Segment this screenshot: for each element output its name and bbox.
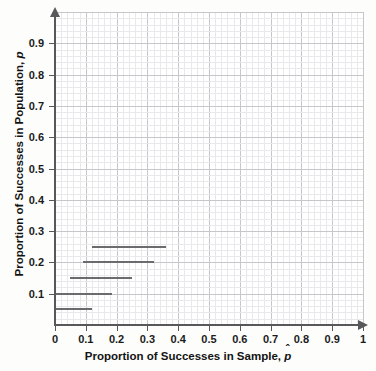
data-segment (55, 293, 112, 295)
y-axis-tick (49, 169, 54, 170)
x-axis-tick-label: 0.2 (109, 333, 124, 345)
y-axis-tick (49, 200, 54, 201)
gridline-horizontal (55, 306, 363, 307)
gridline-horizontal (55, 12, 363, 13)
gridline-horizontal (55, 275, 363, 276)
gridline-horizontal (55, 256, 363, 257)
x-axis-tick-label: 0.8 (294, 333, 309, 345)
gridline-horizontal (55, 112, 363, 113)
x-axis-tick (117, 326, 118, 331)
y-axis-tick-label: 0.7 (29, 100, 44, 112)
gridline-horizontal (55, 162, 363, 163)
gridline-horizontal (55, 81, 363, 82)
chart-container: 00.10.20.30.40.50.60.70.80.910.10.20.30.… (0, 0, 376, 371)
x-axis-tick (240, 326, 241, 331)
gridline-horizontal (55, 212, 363, 213)
y-axis-tick-label: 0.2 (29, 256, 44, 268)
x-axis-tick-label: 0 (52, 333, 58, 345)
gridline-horizontal (55, 37, 363, 38)
y-axis-tick-label: 0.1 (29, 288, 44, 300)
y-axis-variable-letter: p (13, 52, 25, 59)
gridline-horizontal (55, 87, 363, 88)
gridline-vertical (363, 12, 364, 325)
gridline-horizontal (55, 319, 363, 320)
gridline-horizontal (55, 244, 363, 245)
x-axis-tick (301, 326, 302, 331)
y-axis-tick-label: 0.5 (29, 163, 44, 175)
gridline-horizontal (55, 56, 363, 57)
gridline-horizontal (55, 287, 363, 288)
y-axis-tick-label: 0.9 (29, 37, 44, 49)
y-axis-tick-label: 0.6 (29, 131, 44, 143)
y-axis-tick (49, 137, 54, 138)
gridline-horizontal (55, 106, 363, 107)
x-axis-tick (178, 326, 179, 331)
x-axis-tick (332, 326, 333, 331)
x-axis-variable: ˆ p (284, 350, 291, 362)
data-segment (92, 246, 166, 248)
gridline-horizontal (55, 250, 363, 251)
y-axis-tick (49, 106, 54, 107)
x-axis-tick-label: 0.9 (325, 333, 340, 345)
gridline-horizontal (55, 281, 363, 282)
gridline-horizontal (55, 93, 363, 94)
gridline-horizontal (55, 18, 363, 19)
gridline-horizontal (55, 31, 363, 32)
x-axis-tick (86, 326, 87, 331)
plot-area (55, 12, 363, 325)
gridline-horizontal (55, 68, 363, 69)
x-axis-tick-label: 0.3 (140, 333, 155, 345)
gridline-horizontal (55, 156, 363, 157)
y-axis-title-text: Proportion of Successes in Population, (13, 62, 25, 277)
x-axis-tick-label: 1 (360, 333, 366, 345)
x-axis-tick-label: 0.1 (78, 333, 93, 345)
gridline-horizontal (55, 100, 363, 101)
y-axis-tick (49, 294, 54, 295)
y-axis-tick-label: 0.4 (29, 194, 44, 206)
gridline-horizontal (55, 125, 363, 126)
gridline-horizontal (55, 312, 363, 313)
gridline-horizontal (55, 219, 363, 220)
gridline-horizontal (55, 206, 363, 207)
y-axis-tick-label: 0.3 (29, 225, 44, 237)
gridline-horizontal (55, 137, 363, 138)
gridline-horizontal (55, 187, 363, 188)
x-axis-tick (55, 326, 56, 331)
gridline-horizontal (55, 181, 363, 182)
gridline-horizontal (55, 269, 363, 270)
gridline-horizontal (55, 25, 363, 26)
p-hat-icon: ˆ (284, 342, 291, 354)
x-axis-tick-label: 0.4 (171, 333, 186, 345)
data-segment (70, 277, 132, 279)
x-axis-tick-label: 0.6 (232, 333, 247, 345)
gridline-horizontal (55, 231, 363, 232)
gridline-horizontal (55, 225, 363, 226)
gridline-horizontal (55, 200, 363, 201)
gridline-horizontal (55, 75, 363, 76)
x-axis-tick (147, 326, 148, 331)
y-axis-tick (49, 43, 54, 44)
y-axis-arrow-icon (50, 7, 60, 17)
x-axis-tick-label: 0.7 (263, 333, 278, 345)
x-axis-tick (209, 326, 210, 331)
gridline-horizontal (55, 175, 363, 176)
data-segment (83, 261, 154, 263)
gridline-horizontal (55, 131, 363, 132)
gridline-horizontal (55, 237, 363, 238)
x-axis-tick-label: 0.5 (201, 333, 216, 345)
gridline-horizontal (55, 118, 363, 119)
data-segment (55, 308, 92, 310)
x-axis-tick (363, 326, 364, 331)
gridline-horizontal (55, 143, 363, 144)
x-axis-title-text: Proportion of Successes in Sample, (85, 350, 281, 362)
gridline-horizontal (55, 169, 363, 170)
y-axis-title: Proportion of Successes in Population, p (13, 14, 25, 314)
gridline-horizontal (55, 43, 363, 44)
gridline-horizontal (55, 194, 363, 195)
gridline-horizontal (55, 150, 363, 151)
gridline-horizontal (55, 300, 363, 301)
y-axis-tick (49, 75, 54, 76)
x-axis-title: Proportion of Successes in Sample, ˆ p (0, 350, 376, 362)
x-axis-tick (271, 326, 272, 331)
gridline-horizontal (55, 50, 363, 51)
